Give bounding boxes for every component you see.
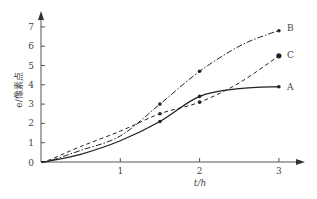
y-tick-label: 1 (28, 138, 34, 148)
end-point-marker (276, 53, 281, 58)
chart-container: 1234567 123 0 t/h e/像素点 A B C (0, 0, 317, 199)
x-axis-label: t/h (194, 178, 206, 188)
series-line (41, 31, 279, 162)
x-tick-label: 1 (117, 166, 123, 176)
y-tick-label: 6 (28, 41, 34, 51)
series-group (41, 29, 282, 162)
y-tick-label: 5 (28, 61, 34, 71)
series-a (41, 85, 281, 162)
end-point-marker (277, 85, 281, 89)
data-point-marker (198, 95, 202, 99)
x-tick-label: 2 (197, 166, 203, 176)
x-ticks: 123 (117, 158, 282, 176)
origin-label: 0 (28, 158, 34, 168)
y-ticks: 1234567 (28, 22, 45, 148)
y-tick-label: 2 (28, 118, 34, 128)
x-tick-label: 3 (276, 166, 282, 176)
line-chart: 1234567 123 0 t/h e/像素点 A B C (0, 0, 317, 199)
y-tick-label: 3 (28, 99, 34, 109)
series-b (41, 29, 281, 162)
series-label-a: A (286, 82, 294, 92)
axes (38, 11, 305, 165)
end-point-marker (277, 29, 281, 33)
data-point-marker (158, 102, 162, 106)
data-point-marker (158, 112, 162, 116)
series-c (41, 53, 282, 162)
y-tick-label: 4 (28, 80, 34, 90)
y-axis-label: e/像素点 (13, 72, 24, 107)
data-point-marker (158, 120, 162, 124)
data-point-marker (198, 69, 202, 73)
series-line (41, 56, 279, 162)
y-axis-arrow-icon (38, 11, 44, 20)
y-tick-label: 7 (28, 22, 34, 32)
data-point-marker (198, 100, 202, 104)
series-label-b: B (287, 23, 294, 33)
series-line (41, 87, 279, 162)
series-label-c: C (287, 50, 294, 60)
x-axis-arrow-icon (296, 159, 305, 165)
